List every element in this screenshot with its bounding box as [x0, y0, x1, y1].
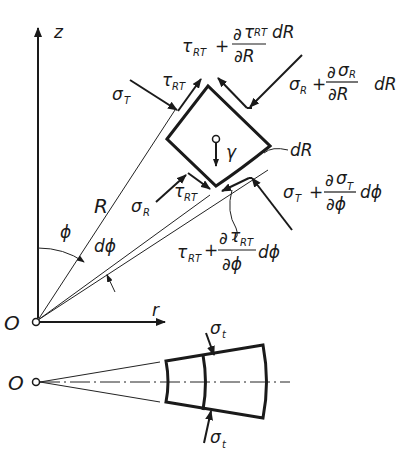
svg-text:t: t: [222, 439, 227, 450]
tau-RT-dR-label: τ RT + ∂ τ RT dR ∂R: [182, 22, 295, 66]
tau-RT-bottom-left-label: τ RT: [174, 181, 198, 203]
svg-text:+: +: [215, 36, 229, 56]
svg-text:∂ϕ: ∂ϕ: [326, 194, 346, 214]
svg-text:∂R: ∂R: [328, 84, 349, 104]
origin-label: O: [4, 311, 20, 335]
phi-label: ϕ: [60, 222, 71, 242]
svg-text:R: R: [143, 207, 150, 218]
stress-element-diagram: z r O ϕ dϕ R γ dR σ T τ RT τ RT +: [0, 0, 409, 463]
svg-text:RT: RT: [254, 27, 268, 38]
svg-text:∂R: ∂R: [234, 46, 255, 66]
svg-text:∂: ∂: [219, 228, 228, 248]
svg-text:σ: σ: [112, 84, 124, 104]
svg-text:RT: RT: [184, 192, 198, 203]
svg-text:T: T: [347, 181, 354, 192]
svg-text:RT: RT: [240, 237, 254, 248]
body-force-label: γ: [226, 142, 237, 162]
svg-text:+: +: [309, 182, 323, 202]
tau-RT-top-left-label: τ RT: [162, 70, 186, 92]
svg-text:R: R: [349, 69, 356, 80]
sigma-t-top-label: σ t: [210, 318, 227, 340]
svg-text:τ: τ: [177, 242, 188, 262]
dphi-label: dϕ: [94, 236, 116, 256]
svg-text:σ: σ: [283, 182, 295, 202]
svg-text:dR: dR: [374, 74, 397, 94]
svg-text:σ: σ: [210, 318, 222, 338]
radius-label: R: [94, 194, 108, 218]
element-width-label: dR: [290, 140, 313, 160]
svg-text:∂: ∂: [325, 170, 334, 190]
svg-text:τ: τ: [182, 36, 193, 56]
svg-text:R: R: [300, 85, 307, 96]
lower-origin-label: O: [8, 371, 24, 395]
z-axis-label: z: [53, 22, 64, 42]
sigma-T-label: σ T: [112, 84, 131, 106]
svg-text:∂ϕ: ∂ϕ: [222, 254, 242, 274]
svg-text:t: t: [222, 329, 227, 340]
tau-RT-dphi-label: τ RT + ∂ τ RT ∂ϕ dϕ: [177, 226, 280, 274]
svg-text:RT: RT: [193, 47, 207, 58]
sigma-R-dR-label: σ R + ∂ σ R ∂R dR: [289, 60, 397, 104]
svg-text:T: T: [295, 193, 302, 204]
sigma-T-dphi-label: σ T + ∂ σ T ∂ϕ dϕ: [283, 168, 382, 214]
tau-RT-top-arrow: [218, 78, 247, 108]
svg-text:T: T: [124, 95, 131, 106]
svg-text:σ: σ: [210, 427, 222, 447]
sigma-R-label: σ R: [131, 196, 150, 218]
svg-text:+: +: [312, 74, 326, 94]
svg-text:+: +: [204, 240, 218, 260]
svg-text:∂: ∂: [233, 24, 242, 44]
body-force-origin: [213, 136, 220, 143]
svg-text:dR: dR: [272, 22, 295, 42]
svg-text:dϕ: dϕ: [360, 182, 382, 202]
svg-text:∂: ∂: [327, 62, 336, 82]
sigma-t-bottom-label: σ t: [210, 427, 227, 450]
svg-text:dϕ: dϕ: [258, 242, 280, 262]
svg-text:σ: σ: [131, 196, 143, 216]
svg-text:RT: RT: [172, 81, 186, 92]
r-axis-label: r: [152, 300, 160, 320]
lower-origin-point: [33, 379, 40, 386]
svg-text:RT: RT: [188, 253, 202, 264]
dphi-arrow: [107, 275, 115, 292]
